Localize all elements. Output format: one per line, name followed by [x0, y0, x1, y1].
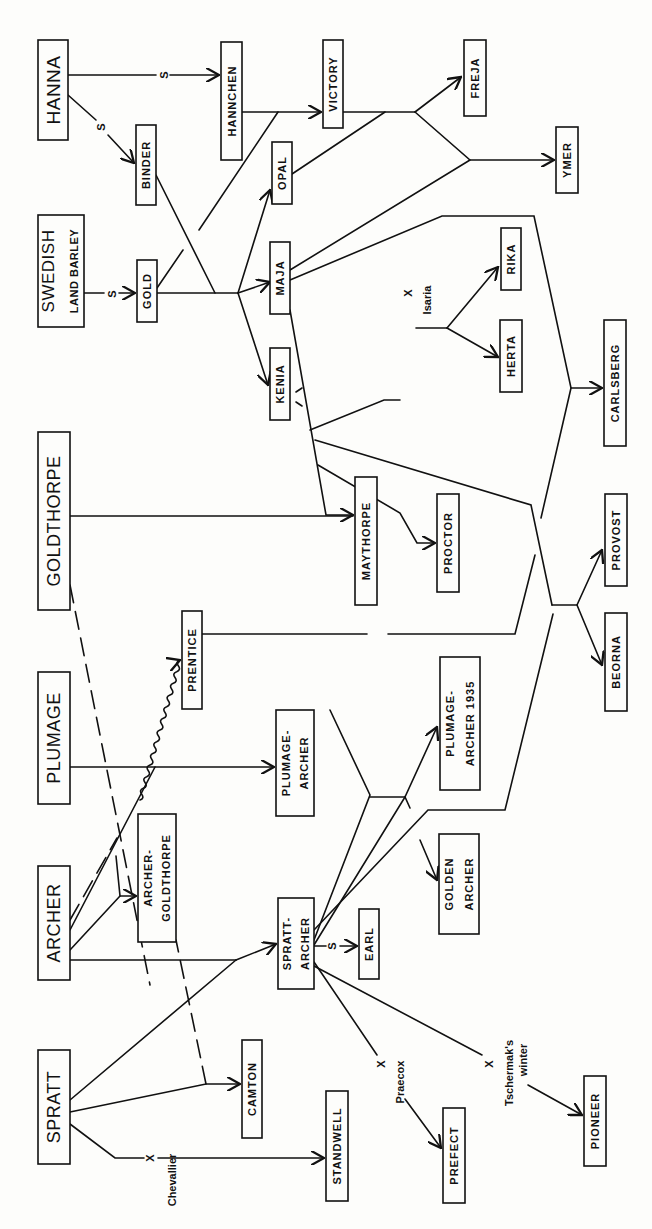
variety-node-hannchen: HANNCHEN — [221, 42, 242, 160]
variety-node-goldthorpe: GOLDTHORPE — [38, 432, 70, 610]
variety-node-proctor: PROCTOR — [437, 494, 459, 592]
pedigree-edge — [70, 896, 136, 950]
pedigree-edge — [70, 960, 236, 1100]
node-label: ARCHER — [44, 883, 64, 962]
node-label: BEORNA — [610, 635, 622, 689]
node-label: HERTA — [505, 335, 517, 377]
cross-marker: X — [483, 1060, 495, 1068]
node-layer: HANNASWEDISHLAND BARLEYGOLDTHORPEPLUMAGE… — [38, 40, 627, 1203]
variety-node-spratt: SPRATT — [38, 1050, 70, 1164]
node-label: VICTORY — [327, 56, 339, 111]
node-label: OPAL — [276, 156, 288, 190]
node-label: HANNCHEN — [226, 66, 238, 137]
pedigree-edge — [176, 940, 206, 1084]
variety-node-victory: VICTORY — [323, 40, 343, 128]
variety-node-plumage-archer: PLUMAGE-ARCHER — [276, 710, 314, 816]
node-label: FREJA — [469, 57, 481, 98]
variety-node-kenia: KENIA — [270, 348, 290, 420]
node-label: MAJA — [274, 260, 286, 295]
variety-node-ymer: YMER — [556, 127, 578, 193]
node-label: SWEDISH — [39, 230, 58, 313]
variety-node-freja: FREJA — [464, 40, 486, 116]
node-label: ARCHER — [463, 857, 475, 910]
variety-node-archer-goldthorpe: ARCHER-GOLDTHORPE — [138, 814, 176, 942]
node-label: STANDWELL — [331, 1107, 343, 1184]
node-label: ARCHER 1935 — [464, 681, 476, 767]
pedigree-edge — [314, 966, 482, 1055]
variety-node-carlsberg: CARLSBERG — [604, 320, 626, 446]
variety-node-hanna: HANNA — [38, 40, 68, 140]
cross-marker: X — [375, 1060, 387, 1068]
node-label: EARL — [363, 927, 375, 961]
pedigree-edge — [236, 944, 276, 960]
pedigree-edge — [577, 605, 602, 665]
node-label: PIONEER — [589, 1093, 601, 1150]
pedigree-edge — [415, 77, 461, 112]
variety-node-maja: MAJA — [270, 242, 290, 314]
node-label: GOLDEN — [443, 857, 455, 910]
variety-node-herta: HERTA — [500, 320, 522, 392]
pedigree-edge — [68, 95, 96, 120]
cross-parent-label: Tschermak's — [503, 1040, 515, 1106]
node-label: GOLDTHORPE — [44, 455, 64, 586]
node-label: YMER — [561, 142, 573, 178]
cross-marker: X — [402, 289, 414, 297]
pedigree-edge — [541, 388, 571, 518]
variety-node-maythorpe: MAYTHORPE — [355, 477, 377, 605]
variety-node-provost: PROVOST — [605, 494, 627, 586]
pedigree-edge — [296, 402, 302, 406]
node-label: ARCHER — [298, 736, 310, 789]
node-label: PLUMAGE- — [280, 730, 292, 797]
variety-node-rika: RIKA — [501, 228, 521, 290]
node-label: PRENTICE — [186, 628, 198, 692]
variety-node-spratt-archer: SPRATT-ARCHER — [278, 898, 314, 989]
variety-node-golden-archer: GOLDENARCHER — [439, 834, 479, 934]
pedigree-edge — [447, 328, 498, 357]
pedigree-edge — [315, 440, 552, 605]
variety-node-gold: GOLD — [137, 260, 157, 322]
pedigree-edge — [405, 1099, 441, 1148]
pedigree-edge — [290, 310, 353, 515]
node-label: PROCTOR — [442, 512, 454, 574]
variety-node-archer: ARCHER — [38, 866, 70, 980]
variety-node-earl: EARL — [359, 909, 379, 979]
pedigree-edge — [310, 400, 400, 430]
cross-parent-label: Isaria — [421, 285, 433, 315]
selection-marker: S — [326, 942, 338, 949]
pedigree-edge — [238, 282, 270, 293]
node-label: ARCHER- — [142, 849, 154, 907]
variety-node-plumage: PLUMAGE — [38, 672, 70, 804]
cross-parent-label: Chevallier — [166, 1153, 178, 1206]
node-label: PLUMAGE — [44, 692, 64, 784]
edge-layer — [68, 75, 602, 1158]
variety-node-prentice: PRENTICE — [182, 611, 202, 709]
node-label: BINDER — [140, 141, 152, 189]
pedigree-diagram: HANNASWEDISHLAND BARLEYGOLDTHORPEPLUMAGE… — [0, 0, 652, 1229]
pedigree-edge — [290, 160, 470, 270]
node-label: LAND BARLEY — [68, 229, 80, 313]
pedigree-edge — [370, 727, 437, 797]
node-label: PROVOST — [610, 510, 622, 571]
node-label: ARCHER — [299, 917, 311, 970]
node-label: CAMTON — [246, 1062, 258, 1116]
node-label: RIKA — [505, 244, 517, 275]
node-label: GOLD — [141, 273, 153, 309]
node-label: SPRATT — [44, 1071, 64, 1144]
variety-node-standwell: STANDWELL — [326, 1091, 348, 1201]
node-label: PREFECT — [448, 1126, 460, 1184]
node-label: MAYTHORPE — [360, 502, 372, 580]
selection-marker: S — [106, 290, 118, 297]
annotation-layer: SSSSXIsariaXChevallierXPraecoxXTschermak… — [95, 71, 529, 1206]
node-label: GOLDTHORPE — [160, 834, 172, 922]
variety-node-swedish: SWEDISHLAND BARLEY — [38, 215, 84, 327]
variety-node-prefect: PREFECT — [443, 1108, 465, 1203]
pedigree-edge — [415, 112, 554, 160]
cross-parent-label: Praecox — [394, 1060, 406, 1104]
pedigree-edge — [70, 1084, 240, 1112]
pedigree-edge — [528, 1085, 582, 1115]
variety-node-pioneer: PIONEER — [584, 1076, 606, 1166]
pedigree-edge — [447, 267, 498, 328]
variety-node-beorna: BEORNA — [605, 613, 627, 711]
pedigree-edge — [157, 250, 183, 288]
variety-node-opal: OPAL — [272, 142, 292, 204]
